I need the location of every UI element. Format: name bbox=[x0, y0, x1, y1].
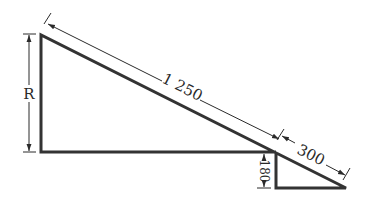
shape-outline bbox=[41, 35, 346, 188]
large-triangle bbox=[41, 35, 346, 188]
label-r: R bbox=[23, 85, 35, 103]
label-180: 180 bbox=[257, 160, 271, 183]
diagram-canvas: R 1 250 300 180 bbox=[0, 0, 371, 202]
